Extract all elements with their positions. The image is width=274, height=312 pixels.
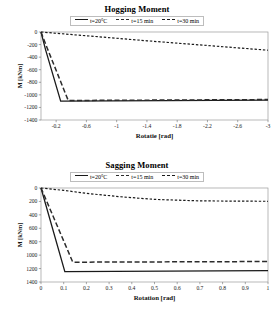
y-tick-label: 0 — [35, 29, 38, 35]
legend-item-t30-bottom: t=30 min — [162, 174, 199, 180]
x-axis-title: Rotation [rad] — [134, 294, 176, 302]
x-tick-label: -1.4 — [143, 123, 152, 129]
x-tick-label: -0.2 — [52, 123, 61, 129]
legend-item-t20c-top: t=20°C — [75, 18, 107, 24]
legend-key-dashed-icon — [116, 175, 129, 179]
x-tick-label: 0.9 — [242, 285, 249, 291]
y-tick-label: 1000 — [26, 252, 37, 258]
y-tick-label: 200 — [29, 198, 38, 204]
legend-item-t15-top: t=15 min — [116, 18, 153, 24]
x-tick-label: 0.4 — [128, 285, 135, 291]
hogging-moment-chart: Hogging Moment t=20°C t=15 min t=30 min … — [0, 0, 274, 156]
legend-label-t30-bottom: t=30 min — [177, 174, 199, 180]
x-axis-title: Rotatie [rad] — [136, 132, 174, 140]
legend-key-dashed-icon — [116, 19, 129, 23]
legend-label-t20c-top: t=20°C — [90, 18, 107, 24]
y-tick-label: 600 — [29, 225, 38, 231]
plot-area-sagging: 00.10.20.30.40.50.60.70.80.9102004006008… — [0, 182, 274, 312]
x-tick-label: 1 — [267, 285, 270, 291]
x-tick-label: 0.1 — [60, 285, 67, 291]
y-tick-label: 400 — [29, 212, 38, 218]
y-tick-label: 0 — [35, 185, 38, 191]
chart-title-hogging: Hogging Moment — [0, 0, 274, 14]
x-tick-label: -1 — [114, 123, 119, 129]
y-tick-label: 800 — [29, 239, 38, 245]
x-tick-label: 0.8 — [219, 285, 226, 291]
x-tick-label: 0.3 — [106, 285, 113, 291]
legend-label-t15-top: t=15 min — [131, 18, 153, 24]
x-tick-label: 0.5 — [151, 285, 158, 291]
y-tick-label: -1200 — [24, 104, 37, 110]
y-tick-label: -800 — [27, 79, 37, 85]
y-tick-label: -600 — [27, 67, 37, 73]
y-tick-label: -1000 — [24, 92, 37, 98]
x-tick-label: 0 — [40, 285, 43, 291]
plot-area-hogging: -0.2-0.6-1-1.4-1.8-2.2-2.6-30-200-400-60… — [0, 26, 274, 146]
legend-key-solid-icon — [75, 175, 88, 179]
x-tick-label: -1.8 — [173, 123, 182, 129]
x-tick-label: 0.7 — [196, 285, 203, 291]
y-tick-label: 1200 — [26, 266, 37, 272]
legend-key-solid-icon — [75, 19, 88, 23]
x-tick-label: -3 — [266, 123, 271, 129]
sagging-moment-chart: Sagging Moment t=20°C t=15 min t=30 min … — [0, 156, 274, 312]
y-tick-label: -400 — [27, 54, 37, 60]
legend-item-t15-bottom: t=15 min — [116, 174, 153, 180]
legend-key-dotted-icon — [162, 175, 175, 179]
chart-title-sagging: Sagging Moment — [0, 156, 274, 170]
legend-item-t30-top: t=30 min — [162, 18, 199, 24]
legend-sagging: t=20°C t=15 min t=30 min — [70, 172, 204, 182]
y-tick-label: -200 — [27, 42, 37, 48]
legend-label-t30-top: t=30 min — [177, 18, 199, 24]
x-tick-label: 0.2 — [83, 285, 90, 291]
y-tick-label: 1400 — [26, 279, 37, 285]
legend-key-dotted-icon — [162, 19, 175, 23]
y-axis-title: M [kNm] — [16, 223, 23, 248]
y-tick-label: -1400 — [24, 117, 37, 123]
legend-label-t15-bottom: t=15 min — [131, 174, 153, 180]
figure-page: Hogging Moment t=20°C t=15 min t=30 min … — [0, 0, 274, 312]
sagging-plot-svg: 00.10.20.30.40.50.60.70.80.9102004006008… — [0, 182, 274, 312]
legend-item-t20c-bottom: t=20°C — [75, 174, 107, 180]
x-tick-label: -2.6 — [233, 123, 242, 129]
y-axis-title: M [kNm] — [16, 64, 23, 89]
x-tick-label: 0.6 — [174, 285, 181, 291]
x-tick-label: -2.2 — [203, 123, 212, 129]
hogging-plot-svg: -0.2-0.6-1-1.4-1.8-2.2-2.6-30-200-400-60… — [0, 26, 274, 146]
legend-label-t20c-bottom: t=20°C — [90, 174, 107, 180]
x-tick-label: -0.6 — [82, 123, 91, 129]
legend-hogging: t=20°C t=15 min t=30 min — [70, 16, 204, 26]
